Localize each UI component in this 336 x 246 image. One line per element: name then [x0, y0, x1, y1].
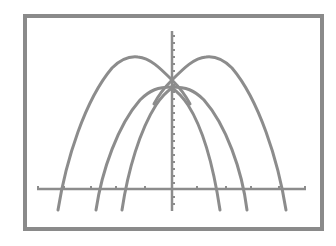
- y-axis: [172, 31, 175, 211]
- graph-canvas: [0, 0, 336, 246]
- calculator-graph-screen: [0, 0, 336, 246]
